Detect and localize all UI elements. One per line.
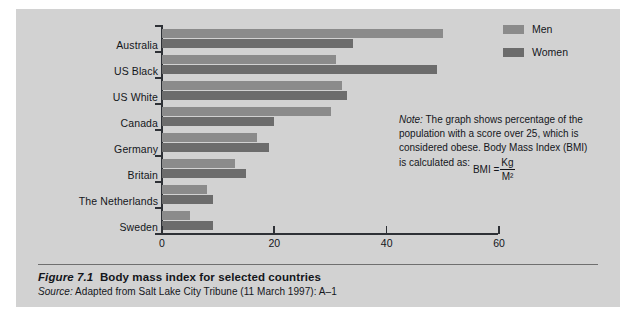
caption-divider [38, 264, 598, 265]
chart-note: Note: The graph shows percentage of the … [399, 113, 589, 183]
y-axis-tick [155, 77, 162, 79]
y-axis-tick [155, 181, 162, 183]
bar-australia-men [162, 29, 443, 38]
bmi-formula-label: BMI = [473, 163, 499, 174]
x-axis-tick [498, 226, 500, 234]
x-axis-tick-label-0: 0 [159, 237, 165, 249]
figure-caption: Figure 7.1 Body mass index for selected … [38, 271, 598, 297]
x-axis-tick-label-60: 60 [493, 237, 505, 249]
bar-us-white-women [162, 91, 347, 100]
legend-swatch-women-icon [503, 48, 524, 57]
caption-figure-title: Body mass index for selected countries [100, 271, 321, 283]
legend-item-women: Women [503, 46, 613, 58]
x-axis-tick [386, 226, 388, 234]
bar-germany-men [162, 133, 257, 142]
y-axis-label-britain: Britain [18, 169, 158, 181]
y-axis-label-canada: Canada [18, 117, 158, 129]
bar-us-white-men [162, 81, 342, 90]
y-axis-label-us-black: US Black [18, 65, 158, 77]
bar-australia-women [162, 39, 353, 48]
y-axis-label-sweden: Sweden [18, 221, 158, 233]
bar-canada-women [162, 117, 274, 126]
x-axis-tick [161, 226, 163, 234]
bar-us-black-women [162, 65, 437, 74]
bmi-fraction: KgM² [500, 157, 514, 183]
figure-panel: Australia US Black US White Canada Germa… [16, 9, 620, 307]
caption-source-text: Adapted from Salt Lake City Tribune (11 … [73, 286, 337, 297]
caption-title: Figure 7.1 Body mass index for selected … [38, 271, 598, 283]
legend-swatch-men-icon [503, 25, 524, 34]
bmi-numerator: Kg [500, 157, 514, 170]
caption-source: Source: Adapted from Salt Lake City Trib… [38, 286, 598, 297]
bar-sweden-men [162, 211, 190, 220]
y-axis-tick [155, 51, 162, 53]
bar-britain-men [162, 159, 235, 168]
legend-label-men: Men [532, 23, 552, 35]
note-lead: Note: [399, 114, 423, 125]
y-axis-tick [155, 25, 162, 27]
x-axis-tick-label-40: 40 [381, 237, 393, 249]
bar-britain-women [162, 169, 246, 178]
y-axis-category-labels: Australia US Black US White Canada Germa… [16, 9, 158, 254]
bar-the-netherlands-women [162, 195, 213, 204]
bar-germany-women [162, 143, 269, 152]
bar-canada-men [162, 107, 331, 116]
bmi-formula: BMI =KgM² [473, 157, 515, 183]
y-axis-label-germany: Germany [18, 143, 158, 155]
caption-figure-number: Figure 7.1 [38, 271, 93, 283]
y-axis-tick [155, 129, 162, 131]
y-axis-label-australia: Australia [18, 39, 158, 51]
x-axis-line [161, 233, 498, 235]
bar-us-black-men [162, 55, 336, 64]
bar-the-netherlands-men [162, 185, 207, 194]
y-axis-label-the-netherlands: The Netherlands [18, 195, 158, 207]
legend-item-men: Men [503, 23, 613, 35]
y-axis-tick [155, 155, 162, 157]
y-axis-label-us-white: US White [18, 91, 158, 103]
y-axis-tick [155, 207, 162, 209]
x-axis-tick-label-20: 20 [268, 237, 280, 249]
y-axis-tick [155, 103, 162, 105]
legend-label-women: Women [532, 46, 568, 58]
chart-legend: Men Women [503, 23, 613, 69]
bar-sweden-women [162, 221, 213, 230]
x-axis-tick [273, 226, 275, 234]
caption-source-lead: Source: [38, 286, 73, 297]
bmi-denominator: M² [500, 170, 514, 183]
